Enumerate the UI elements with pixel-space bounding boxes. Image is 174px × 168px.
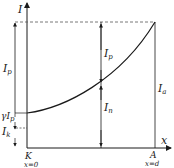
current-curve <box>27 22 155 113</box>
current-distribution-diagram: I x Ip Ip In Ia γIp Ik K x=0 A x=d <box>0 0 174 168</box>
ip-left-label: Ip <box>2 62 12 76</box>
in-mid-label: In <box>103 101 113 115</box>
y-axis-label: I <box>17 3 23 16</box>
gamma-ip-label: γIp <box>1 111 15 123</box>
ik-label: Ik <box>1 125 11 139</box>
ia-right-label: Ia <box>157 82 167 96</box>
anode-label: A <box>149 150 157 160</box>
cathode-position: x=0 <box>24 161 39 168</box>
anode-position: x=d <box>145 160 160 168</box>
x-axis-label: x <box>161 134 168 147</box>
cathode-label: K <box>24 151 33 161</box>
ip-mid-label: Ip <box>103 47 113 61</box>
